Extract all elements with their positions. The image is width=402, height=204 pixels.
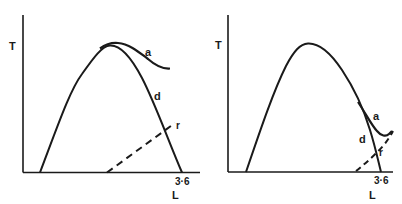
left-panel: T a d r 3·6 L xyxy=(9,15,200,201)
left-x-axis-label: L xyxy=(172,189,179,201)
left-label-r: r xyxy=(176,120,180,131)
left-x-tick-label: 3·6 xyxy=(175,176,190,187)
diagram-canvas: T a d r 3·6 L T a d r 3·6 L xyxy=(0,0,402,204)
right-x-tick-label: 3·6 xyxy=(374,175,389,186)
right-label-d: d xyxy=(359,133,366,145)
right-x-axis-label: L xyxy=(369,189,376,201)
right-y-axis-label: T xyxy=(215,39,222,51)
left-label-d: d xyxy=(154,90,161,102)
left-curve-d xyxy=(40,45,182,172)
left-label-a: a xyxy=(145,46,152,58)
right-label-r: r xyxy=(379,147,383,158)
right-panel: T a d r 3·6 L xyxy=(215,15,393,201)
right-label-a: a xyxy=(373,110,380,122)
left-y-axis-label: T xyxy=(9,40,16,52)
